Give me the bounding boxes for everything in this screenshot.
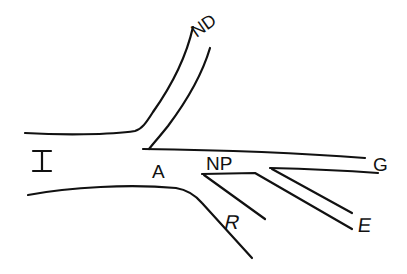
nd-inner-wall bbox=[149, 48, 210, 149]
label-a: A bbox=[152, 162, 165, 181]
g-upper-wall bbox=[143, 149, 365, 158]
label-g: G bbox=[373, 155, 388, 174]
main-lower-wall bbox=[28, 186, 252, 258]
branching-diagram bbox=[0, 0, 407, 274]
label-np: NP bbox=[206, 154, 232, 173]
main-upper-wall bbox=[25, 27, 193, 134]
g-lower-wall bbox=[270, 168, 378, 173]
label-e: E bbox=[357, 215, 373, 235]
